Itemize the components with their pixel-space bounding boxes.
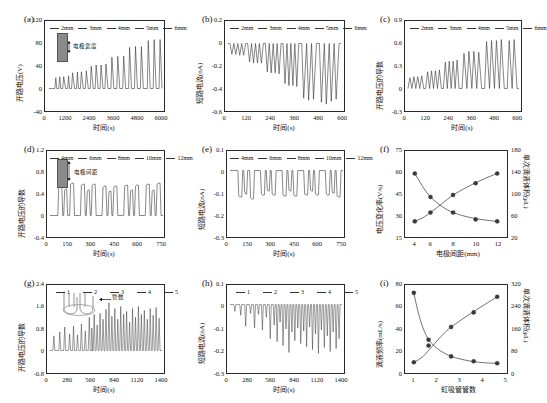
panel-g-plot: 管数 xyxy=(46,284,165,374)
panel-a-xtick: 2400 xyxy=(80,114,98,121)
panel-h-ytick: 0.1 xyxy=(202,280,224,287)
legend-line xyxy=(258,28,267,29)
legend-label: 2 xyxy=(274,289,277,295)
panel-c-xtick: 240 xyxy=(439,114,457,121)
panel-g-legend: 1 2 3 4 5 xyxy=(56,289,178,295)
legend-item: 1 xyxy=(236,289,250,295)
panel-i-xtick: 3 xyxy=(451,376,467,383)
panel-a-xtick: 6000 xyxy=(152,114,170,121)
panel-i-xtick: 2 xyxy=(428,376,444,383)
panel-i-xtick: 1 xyxy=(405,376,421,383)
legend-line xyxy=(317,292,326,293)
panel-a-legend: 2mm 3mm 4mm 5mm 6mm xyxy=(50,25,187,31)
panel-b-ytick: 0 xyxy=(200,39,222,46)
panel-g-xlabel: 时间(s) xyxy=(64,384,144,394)
panel-c-plot xyxy=(404,20,522,112)
panel-g-xtick: 280 xyxy=(58,376,76,383)
panel-d-inset-note: 电极间距 xyxy=(74,168,98,176)
panel-i-ytick: 60 xyxy=(380,302,402,309)
panel-g-ytick: 1.6 xyxy=(22,302,44,309)
panel-e-ytick: 0.1 xyxy=(202,146,224,153)
legend-line xyxy=(230,28,239,29)
panel-d-xtick: 750 xyxy=(152,240,170,247)
legend-item: 3 xyxy=(110,289,124,295)
legend-line xyxy=(135,158,144,159)
legend-item: 2 xyxy=(83,289,97,295)
panel-i-xtick: 5 xyxy=(497,376,513,383)
legend-label: 3mm xyxy=(449,25,461,31)
legend-line xyxy=(83,292,92,293)
legend-label: 2mm xyxy=(61,25,73,31)
panel-e-plot xyxy=(226,150,345,238)
legend-line xyxy=(315,28,324,29)
legend-label: 5mm xyxy=(506,25,518,31)
legend-line xyxy=(263,292,272,293)
panel-d-ytick: 1.2 xyxy=(22,146,44,153)
panel-g-ylabel: 开路电压的导数 xyxy=(16,323,26,372)
panel-h-xtick: 280 xyxy=(238,376,256,383)
panel-f-ytick: 75 xyxy=(380,146,402,153)
legend-line xyxy=(230,158,239,159)
panel-f-curves xyxy=(405,151,507,237)
panel-b-plot xyxy=(224,20,345,112)
legend-item: 6mm xyxy=(523,25,546,31)
legend-label: 4mm xyxy=(118,25,130,31)
legend-item: 3 xyxy=(290,289,304,295)
panel-c-xtick: 0 xyxy=(396,114,412,121)
legend-line xyxy=(344,292,353,293)
legend-item: 1 xyxy=(56,289,70,295)
panel-a-xtick: 3600 xyxy=(104,114,122,121)
legend-label: 10mm xyxy=(146,155,161,161)
legend-label: 8mm xyxy=(118,155,130,161)
legend-line xyxy=(438,28,447,29)
panel-b: (b) 2mm 3mm 4mm 5mm 6mm 0.2 0 -0.2 -0.4 … xyxy=(178,0,358,134)
legend-item: 2mm xyxy=(230,25,253,31)
legend-item: 8mm xyxy=(107,155,130,161)
legend-label: 2mm xyxy=(241,25,253,31)
legend-item: 4mm xyxy=(467,25,490,31)
legend-label: 3 xyxy=(121,289,124,295)
panel-f-xlabel: 电极间距(mm) xyxy=(416,248,500,258)
panel-b-xtick: 360 xyxy=(285,114,303,121)
panel-h-legend: 1 2 3 4 5 xyxy=(236,289,358,295)
panel-e-curves xyxy=(227,151,344,237)
panel-h: (h) 1 2 3 4 5 0.1 0 -0.1 -0.2 -0.3 0 280… xyxy=(178,266,358,403)
legend-label: 6mm xyxy=(534,25,546,31)
panel-f-plot xyxy=(404,150,508,238)
legend-label: 1 xyxy=(247,289,250,295)
panel-b-xtick: 480 xyxy=(309,114,327,121)
panel-i-xtick: 4 xyxy=(474,376,490,383)
panel-i-ytick-right: 0 xyxy=(511,370,533,377)
panel-g-xtick: 0 xyxy=(38,376,54,383)
legend-label: 4mm xyxy=(298,25,310,31)
panel-d-legend: 4mm 6mm 8mm 10mm 12mm xyxy=(50,155,193,161)
panel-c: (c) 2mm 3mm 4mm 5mm 6mm 0.9 0.6 0.3 0 -0… xyxy=(358,0,536,134)
legend-label: 4mm xyxy=(241,155,253,161)
panel-c-xtick: 360 xyxy=(462,114,480,121)
legend-line xyxy=(135,28,144,29)
panel-e-legend: 4mm 6mm 8mm 10mm 12mm xyxy=(230,155,373,161)
panel-c-xlabel: 时间(s) xyxy=(422,122,502,132)
panel-f-ytick: 15 xyxy=(380,234,402,241)
panel-i-ytick-right: 320 xyxy=(511,280,533,287)
panel-c-legend: 2mm 3mm 4mm 5mm 6mm xyxy=(410,25,547,31)
legend-item: 4mm xyxy=(287,25,310,31)
legend-line xyxy=(50,28,59,29)
panel-g-xtick: 560 xyxy=(81,376,99,383)
panel-g: (g) 管数 xyxy=(0,266,178,403)
legend-line xyxy=(166,158,175,159)
legend-line xyxy=(137,292,146,293)
panel-b-ytick: 0.2 xyxy=(200,16,222,23)
panel-d-xtick: 450 xyxy=(105,240,123,247)
panel-d-ytick: 0.8 xyxy=(22,168,44,175)
legend-item: 4mm xyxy=(50,155,73,161)
panel-e-ytick: 0 xyxy=(202,168,224,175)
tube-count-arrow-icon xyxy=(99,296,112,303)
panel-c-xtick: 120 xyxy=(416,114,434,121)
legend-item: 5mm xyxy=(135,25,158,31)
panel-b-xtick: 0 xyxy=(216,114,232,121)
panel-f-ylabel: 电压变化率(V/s) xyxy=(374,185,384,234)
legend-item: 3mm xyxy=(78,25,101,31)
legend-line xyxy=(163,28,172,29)
